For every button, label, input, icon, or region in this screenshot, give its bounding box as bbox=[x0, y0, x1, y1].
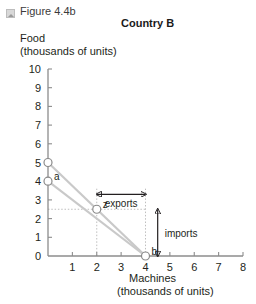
svg-text:exports: exports bbox=[105, 198, 138, 209]
svg-text:6: 6 bbox=[35, 138, 41, 150]
axes bbox=[48, 69, 243, 256]
svg-text:4: 4 bbox=[35, 175, 41, 187]
chart-plot-area: 01234567891012345678 azb exportsimports bbox=[0, 0, 256, 304]
svg-text:5: 5 bbox=[35, 157, 41, 169]
svg-text:9: 9 bbox=[35, 82, 41, 94]
svg-text:1: 1 bbox=[69, 261, 75, 273]
svg-text:4: 4 bbox=[142, 261, 148, 273]
svg-text:8: 8 bbox=[35, 100, 41, 112]
svg-text:5: 5 bbox=[167, 261, 173, 273]
svg-text:10: 10 bbox=[29, 63, 41, 75]
svg-text:imports: imports bbox=[165, 228, 198, 239]
axis-tick-labels: 01234567891012345678 bbox=[29, 63, 246, 273]
svg-text:6: 6 bbox=[191, 261, 197, 273]
svg-text:8: 8 bbox=[240, 261, 246, 273]
svg-text:b: b bbox=[152, 246, 158, 257]
svg-text:7: 7 bbox=[35, 119, 41, 131]
svg-text:3: 3 bbox=[118, 261, 124, 273]
figure-container: Figure 4.4b Country B Food (thousands of… bbox=[0, 0, 256, 304]
svg-text:0: 0 bbox=[35, 250, 41, 262]
svg-text:a: a bbox=[54, 171, 60, 182]
svg-text:7: 7 bbox=[216, 261, 222, 273]
svg-text:2: 2 bbox=[94, 261, 100, 273]
svg-text:3: 3 bbox=[35, 194, 41, 206]
axis-ticks bbox=[48, 69, 243, 256]
svg-text:2: 2 bbox=[35, 213, 41, 225]
svg-text:1: 1 bbox=[35, 231, 41, 243]
